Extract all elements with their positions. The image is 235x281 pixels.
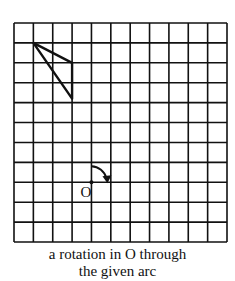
center-label: O bbox=[80, 184, 91, 200]
caption-line-1: a rotation in O through bbox=[0, 246, 235, 263]
caption-line-2: the given arc bbox=[0, 263, 235, 280]
grid bbox=[14, 23, 227, 242]
rotation-diagram: O bbox=[0, 0, 235, 281]
